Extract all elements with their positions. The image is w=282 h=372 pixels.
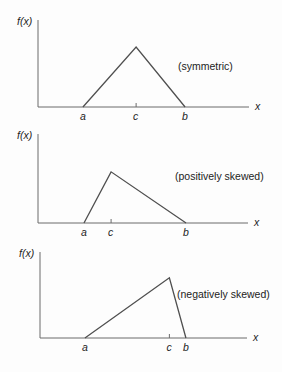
tick-label-a: a <box>81 227 87 238</box>
tick-label-c: c <box>166 342 171 353</box>
plot-canvas <box>0 0 282 124</box>
x-axis-label: x <box>254 217 259 228</box>
y-axis-label: f(x) <box>17 16 32 27</box>
panel-negatively-skewed: f(x) x a c b (negatively skewed) <box>0 248 282 372</box>
tick-label-a: a <box>82 342 88 353</box>
plot-canvas <box>0 124 282 248</box>
tick-label-c: c <box>108 227 113 238</box>
y-axis-label: f(x) <box>19 248 34 259</box>
annotation-positively-skewed: (positively skewed) <box>175 171 264 182</box>
x-axis-label: x <box>255 101 260 112</box>
tick-label-c: c <box>133 111 138 122</box>
density-curve <box>83 47 185 107</box>
density-curve <box>85 278 186 338</box>
annotation-negatively-skewed: (negatively skewed) <box>177 289 270 300</box>
x-axis-label: x <box>253 332 258 343</box>
density-curve <box>84 172 186 223</box>
tick-label-b: b <box>182 111 188 122</box>
tick-label-b: b <box>183 342 189 353</box>
annotation-symmetric: (symmetric) <box>178 61 233 72</box>
tick-label-a: a <box>80 111 86 122</box>
panel-positively-skewed: f(x) x a c b (positively skewed) <box>0 124 282 248</box>
plot-canvas <box>0 248 282 372</box>
triangular-distributions-figure: f(x) x a c b (symmetric) f(x) x a c b (p… <box>0 0 282 372</box>
tick-label-b: b <box>183 227 189 238</box>
y-axis-label: f(x) <box>17 130 32 141</box>
panel-symmetric: f(x) x a c b (symmetric) <box>0 0 282 124</box>
